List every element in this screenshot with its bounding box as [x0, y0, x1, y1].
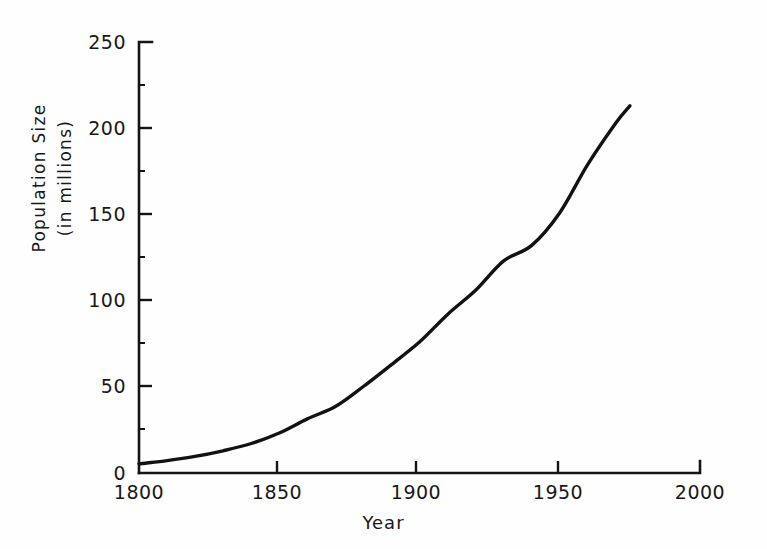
y-axis-title-line2: (in millions)	[52, 58, 78, 298]
x-tick-label-1850: 1850	[237, 481, 317, 503]
x-axis-ticks	[277, 461, 558, 473]
y-axis-title: Population Size (in millions)	[26, 58, 78, 298]
x-tick-label-2000: 2000	[660, 481, 740, 503]
population-curve	[139, 106, 630, 464]
x-axis-spine	[139, 461, 700, 473]
y-tick-label-250: 250	[48, 31, 126, 53]
chart-figure: 250 200 150 100 50 0 1800 1850 1900 1950…	[0, 0, 767, 549]
y-axis-title-line1: Population Size	[29, 103, 49, 252]
x-tick-label-1800: 1800	[99, 481, 179, 503]
y-tick-label-50: 50	[48, 375, 126, 397]
x-tick-label-1900: 1900	[376, 481, 456, 503]
x-axis-title: Year	[0, 512, 767, 533]
x-tick-label-1950: 1950	[518, 481, 598, 503]
